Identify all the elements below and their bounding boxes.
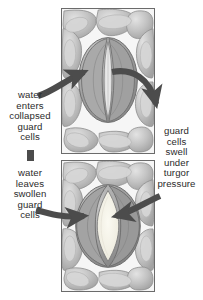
open-stoma-illustration: [62, 161, 154, 291]
closed-stoma-illustration: [62, 9, 154, 153]
stomata-diagram: water enters collapsed guard cells water…: [0, 0, 203, 300]
open-stoma-panel: [61, 160, 155, 292]
guard-cell-pair-open: [76, 185, 141, 268]
caption-turgor-pressure: guard cells swell under turgor pressure: [150, 126, 203, 190]
caption-water-enters: water enters collapsed guard cells: [0, 90, 60, 143]
guard-cell-pair-closed: [79, 38, 138, 123]
caption-water-leaves: water leaves swollen guard cells: [0, 168, 60, 221]
arrow-cycle-stub: [27, 150, 34, 161]
closed-stoma-panel: [61, 8, 155, 154]
